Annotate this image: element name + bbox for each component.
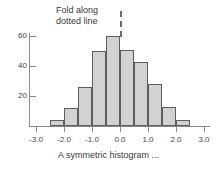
- y-axis-tick: [30, 96, 36, 97]
- y-axis-tick: [30, 66, 36, 67]
- x-axis-tick: [64, 127, 65, 132]
- histogram-figure: 204060 -3.0-2.0-1.00.01.02.03.0 Fold alo…: [0, 0, 217, 175]
- y-axis-tick-label: 20: [7, 92, 27, 100]
- y-axis-tick-label: 40: [7, 62, 27, 70]
- x-axis-tick-label: 0.0: [105, 135, 135, 144]
- fold-annotation-line-1: Fold along: [56, 5, 118, 16]
- x-axis-tick: [176, 127, 177, 132]
- histogram-bar: [162, 107, 176, 127]
- x-axis-tick-label: 2.0: [161, 135, 191, 144]
- plot-area: 204060 -3.0-2.0-1.00.01.02.03.0 Fold alo…: [0, 0, 217, 175]
- histogram-bar: [148, 84, 162, 126]
- x-axis-tick: [120, 127, 121, 132]
- histogram-bar: [92, 51, 106, 126]
- x-axis-tick-label: 1.0: [133, 135, 163, 144]
- chart-caption: A symmetric histogram ...: [0, 150, 217, 161]
- x-axis-tick-label: -3.0: [21, 135, 51, 144]
- histogram-bar: [64, 108, 78, 126]
- histogram-bar: [78, 87, 92, 126]
- histogram-bar: [176, 120, 190, 126]
- histogram-bar: [106, 36, 120, 126]
- y-axis-line: [29, 33, 30, 127]
- x-axis-tick: [148, 127, 149, 132]
- x-axis-tick: [204, 127, 205, 132]
- y-axis-tick-label: 60: [7, 32, 27, 40]
- fold-annotation-line-2: dotted line: [56, 16, 118, 27]
- histogram-bar: [50, 120, 64, 126]
- x-axis-tick-label: -2.0: [49, 135, 79, 144]
- histogram-bar: [120, 50, 134, 127]
- x-axis-tick-label: -1.0: [77, 135, 107, 144]
- histogram-bar: [134, 62, 148, 127]
- x-axis-tick: [92, 127, 93, 132]
- y-axis-tick: [30, 36, 36, 37]
- fold-annotation-text: Fold along dotted line: [56, 5, 118, 27]
- fold-dashed-line-icon: [120, 11, 122, 37]
- x-axis-tick-label: 3.0: [189, 135, 217, 144]
- x-axis-tick: [36, 127, 37, 132]
